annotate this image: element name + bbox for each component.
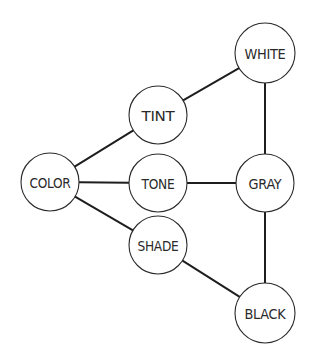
color-relationship-diagram: WHITE TINT COLOR TONE GRAY SHADE BLACK (0, 0, 313, 360)
node-black-label: BLACK (245, 306, 287, 322)
node-tint-label: TINT (140, 108, 175, 124)
node-tint: TINT (129, 86, 187, 144)
node-white: WHITE (235, 23, 295, 83)
edge-tint-white (183, 68, 239, 100)
node-color: COLOR (21, 153, 79, 211)
node-tone-label: TONE (141, 176, 175, 192)
node-tone: TONE (129, 154, 187, 212)
node-shade: SHADE (129, 216, 187, 274)
node-gray: GRAY (236, 154, 294, 212)
node-gray-label: GRAY (249, 176, 282, 192)
node-black: BLACK (235, 283, 295, 343)
node-color-label: COLOR (30, 175, 71, 191)
edge-color-tint (75, 130, 134, 166)
edge-color-shade (75, 197, 133, 231)
edge-shade-black (182, 261, 239, 297)
node-white-label: WHITE (245, 46, 286, 62)
node-shade-label: SHADE (138, 238, 179, 254)
nodes-layer: WHITE TINT COLOR TONE GRAY SHADE BLACK (21, 23, 295, 343)
